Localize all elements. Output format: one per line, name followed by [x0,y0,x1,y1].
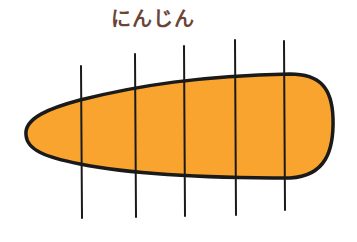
carrot-body [26,74,333,178]
cut-line-1 [81,66,82,218]
cut-line-3 [184,46,185,216]
cut-line-2 [135,54,136,217]
carrot-illustration [0,0,357,242]
cut-line-5 [284,41,285,210]
cut-line-4 [235,40,236,215]
